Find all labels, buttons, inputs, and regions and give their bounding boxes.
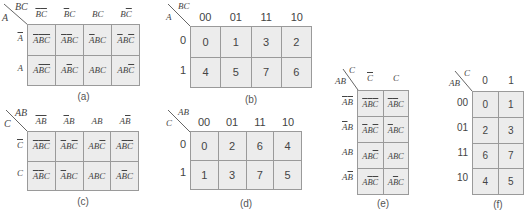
kmap-cell: 0 <box>473 92 499 118</box>
kmap-cell: 2 <box>473 117 499 143</box>
kmap-cell: 3 <box>498 117 524 143</box>
kmap-row-header: 10 <box>442 172 468 183</box>
kmap-row-header: 11 <box>442 147 468 158</box>
kmap-cell: 4 <box>473 169 499 195</box>
kmap-cell: 7 <box>498 143 524 169</box>
corner-left-label: AB <box>449 78 460 88</box>
kmap-row-header: 01 <box>442 122 468 133</box>
kmap-row: 23 <box>473 117 524 143</box>
corner-top-label: C <box>464 68 470 78</box>
kmap-col-header: 1 <box>498 75 524 86</box>
kmap-panel-f: C AB 012367450100011110(f) <box>0 0 531 217</box>
kmap-cell: 1 <box>498 92 524 118</box>
kmap-row-header: 00 <box>442 97 468 108</box>
kmap-row: 67 <box>473 143 524 169</box>
kmap-cell: 6 <box>473 143 499 169</box>
kmap-row: 01 <box>473 92 524 118</box>
kmap-grid: 01236745 <box>472 91 524 195</box>
kmap-row: 45 <box>473 169 524 195</box>
kmap-cell: 5 <box>498 169 524 195</box>
kmap-caption: (f) <box>472 199 524 210</box>
kmap-corner-f: C AB <box>449 70 473 92</box>
kmap-col-header: 0 <box>472 75 498 86</box>
